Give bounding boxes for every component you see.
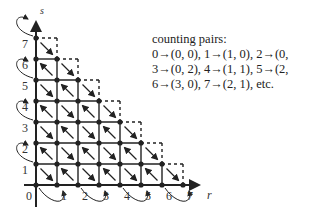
y-tick-label: 7 bbox=[22, 37, 28, 51]
x-tick-label: 3 bbox=[103, 189, 109, 203]
x-tick-label: 2 bbox=[82, 189, 88, 203]
y-tick-label: 3 bbox=[22, 121, 28, 135]
x-tick-label: 6 bbox=[166, 189, 172, 203]
x-tick-label: 7 bbox=[187, 189, 193, 203]
x-tick-label: 5 bbox=[145, 189, 151, 203]
note-heading: counting pairs: bbox=[152, 32, 291, 47]
y-tick-label: 1 bbox=[22, 163, 28, 177]
x-tick-label: 1 bbox=[61, 189, 67, 203]
note-line: 0→(0, 0), 1→(1, 0), 2→(0, 1), bbox=[152, 47, 291, 62]
x-tick-label: 4 bbox=[124, 189, 130, 203]
y-axis-label: s bbox=[40, 5, 44, 16]
x-axis-label: r bbox=[207, 188, 212, 202]
note-line: 6→(3, 0), 7→(2, 1), etc. bbox=[152, 77, 291, 92]
y-tick-label: 5 bbox=[22, 79, 28, 93]
counting-pairs-note: counting pairs: 0→(0, 0), 1→(1, 0), 2→(0… bbox=[152, 32, 291, 92]
x-tick-label: 0 bbox=[26, 189, 32, 203]
note-line: 3→(0, 2), 4→(1, 1), 5→(2, 0), bbox=[152, 62, 291, 77]
y-tick-label: 6 bbox=[22, 58, 28, 72]
y-tick-label: 4 bbox=[22, 100, 28, 114]
y-tick-label: 2 bbox=[22, 142, 28, 156]
